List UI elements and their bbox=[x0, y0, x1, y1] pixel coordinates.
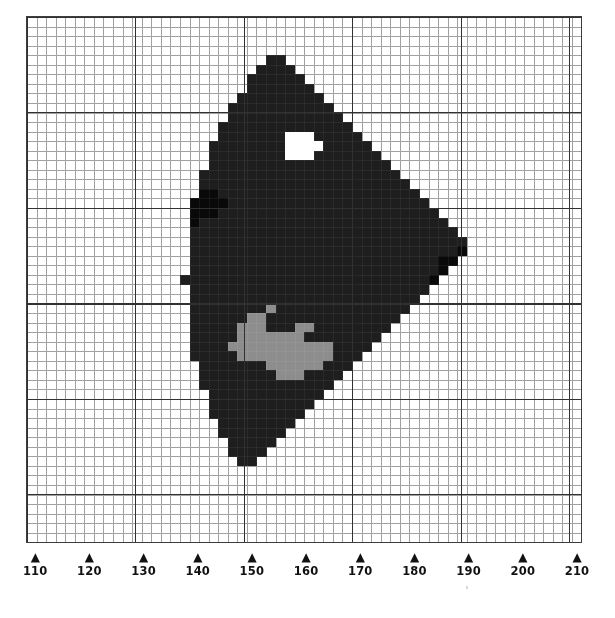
tick-caret-icon: ▲ bbox=[85, 552, 94, 562]
stray-speck bbox=[466, 586, 468, 589]
tick-caret-icon: ▲ bbox=[139, 552, 148, 562]
axis-tick-200: ▲200 bbox=[511, 552, 536, 578]
darker-core-cell bbox=[438, 265, 448, 275]
darker-core-cell bbox=[457, 246, 467, 256]
axis-tick-140: ▲140 bbox=[185, 552, 210, 578]
tick-label: 200 bbox=[511, 564, 536, 578]
tick-caret-icon: ▲ bbox=[356, 552, 365, 562]
tick-caret-icon: ▲ bbox=[464, 552, 473, 562]
tick-label: 150 bbox=[240, 564, 265, 578]
tick-label: 170 bbox=[348, 564, 373, 578]
axis-tick-110: ▲110 bbox=[23, 552, 48, 578]
tick-caret-icon: ▲ bbox=[302, 552, 311, 562]
tick-label: 110 bbox=[23, 564, 48, 578]
axis-tick-160: ▲160 bbox=[294, 552, 319, 578]
tick-label: 140 bbox=[185, 564, 210, 578]
tick-caret-icon: ▲ bbox=[193, 552, 202, 562]
axis-tick-210: ▲210 bbox=[565, 552, 590, 578]
axis-tick-130: ▲130 bbox=[131, 552, 156, 578]
tick-caret-icon: ▲ bbox=[31, 552, 40, 562]
tick-label: 190 bbox=[456, 564, 481, 578]
tick-label: 210 bbox=[565, 564, 590, 578]
axis-tick-170: ▲170 bbox=[348, 552, 373, 578]
tick-label: 130 bbox=[131, 564, 156, 578]
axis-tick-180: ▲180 bbox=[402, 552, 427, 578]
tick-caret-icon: ▲ bbox=[410, 552, 419, 562]
tick-caret-icon: ▲ bbox=[247, 552, 256, 562]
plot-area bbox=[26, 16, 582, 543]
tick-label: 120 bbox=[77, 564, 102, 578]
axis-tick-120: ▲120 bbox=[77, 552, 102, 578]
x-axis: ▲110▲120▲130▲140▲150▲160▲170▲180▲190▲200… bbox=[0, 543, 615, 603]
raster-field bbox=[27, 17, 581, 542]
axis-tick-150: ▲150 bbox=[240, 552, 265, 578]
tick-caret-icon: ▲ bbox=[518, 552, 527, 562]
dark-region-cell bbox=[237, 456, 257, 466]
tick-label: 160 bbox=[294, 564, 319, 578]
tick-label: 180 bbox=[402, 564, 427, 578]
axis-tick-190: ▲190 bbox=[456, 552, 481, 578]
tick-caret-icon: ▲ bbox=[572, 552, 581, 562]
darker-core-cell bbox=[429, 275, 439, 285]
